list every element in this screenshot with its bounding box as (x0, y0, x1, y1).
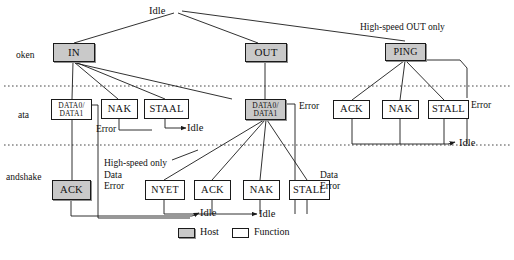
data-row-label: ata (18, 110, 29, 120)
node-stall-data-in-label: STAAL (150, 104, 184, 115)
node-ack-ping-label: ACK (340, 104, 363, 115)
legend-host-swatch (178, 228, 195, 238)
node-stall-ping-label: STALL (432, 104, 465, 115)
node-nak-out[interactable]: NAK (243, 180, 280, 200)
node-nak-ping-label: NAK (389, 104, 412, 115)
node-data-out-label: DATA0/ DATA1 (252, 102, 278, 117)
node-stall-ping[interactable]: STALL (428, 100, 469, 119)
node-ping[interactable]: PING (385, 43, 426, 61)
data-error-label-in: Data Error (104, 170, 124, 192)
node-nak-data-in[interactable]: NAK (101, 99, 138, 119)
node-data-in-label: DATA0/ DATA1 (58, 102, 84, 117)
node-ack-ping[interactable]: ACK (333, 100, 370, 119)
idle-out-label: Idle (259, 208, 275, 219)
error-label-out: Error (299, 101, 319, 111)
data-error-label-out: Data Error (320, 170, 340, 192)
idle-handshake-label: Idle (200, 207, 216, 218)
node-ack-in-label: ACK (60, 185, 83, 196)
high-speed-out-only-label: High-speed OUT only (360, 22, 445, 32)
legend-function-swatch (232, 228, 249, 238)
node-in[interactable]: IN (53, 43, 95, 62)
node-nyet-out[interactable]: NYET (145, 180, 185, 200)
idle-root-label: Idle (149, 5, 165, 16)
error-label-in: Error (96, 124, 116, 134)
node-ack-in[interactable]: ACK (52, 180, 91, 200)
legend-function-label: Function (254, 226, 290, 237)
node-data-out[interactable]: DATA0/ DATA1 (245, 99, 286, 120)
node-out[interactable]: OUT (245, 43, 287, 62)
node-nak-data-in-label: NAK (108, 104, 131, 115)
node-stall-data-in[interactable]: STAAL (144, 99, 189, 119)
node-out-label: OUT (254, 47, 277, 58)
handshake-row-label: andshake (6, 172, 41, 182)
high-speed-only-label: High-speed only (104, 158, 167, 168)
node-nyet-out-label: NYET (151, 185, 178, 195)
diagram-connector-layer (0, 0, 514, 260)
node-ping-label: PING (393, 47, 417, 57)
usb-state-diagram-page: IN OUT PING DATA0/ DATA1 NAK STAAL DATA0… (0, 0, 514, 260)
node-ack-out[interactable]: ACK (194, 180, 231, 200)
idle-ping-label: Idle (459, 137, 475, 148)
idle-data-in-label: Idle (187, 122, 203, 133)
node-in-label: IN (68, 47, 80, 58)
legend-host-label: Host (200, 226, 219, 237)
node-nak-ping[interactable]: NAK (382, 100, 419, 119)
node-nak-out-label: NAK (250, 185, 273, 196)
token-row-label: oken (16, 50, 34, 60)
node-data-in[interactable]: DATA0/ DATA1 (51, 99, 92, 120)
node-ack-out-label: ACK (201, 185, 224, 196)
error-label-ping: Error (471, 100, 491, 110)
